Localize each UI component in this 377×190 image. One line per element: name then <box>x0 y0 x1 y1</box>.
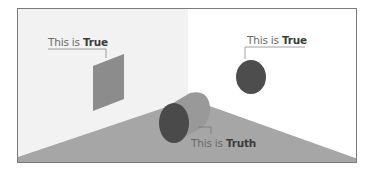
diagram-frame: This is True This is True This is Truth <box>17 8 357 163</box>
cylinder-label-prefix: This is <box>191 137 226 149</box>
cylinder-face <box>159 103 189 143</box>
wall-label-emphasis: True <box>83 36 108 48</box>
cylinder-label-emphasis: Truth <box>226 137 256 149</box>
circle-label-emphasis: True <box>282 34 307 46</box>
circle-label-prefix: This is <box>247 34 282 46</box>
cylinder-label: This is Truth <box>191 137 256 149</box>
wall-label: This is True <box>48 36 108 48</box>
wall-label-prefix: This is <box>48 36 83 48</box>
circle-label: This is True <box>247 34 307 46</box>
circle-leader-line <box>245 47 305 59</box>
scene-illustration <box>18 9 357 163</box>
floating-circle <box>236 60 266 94</box>
